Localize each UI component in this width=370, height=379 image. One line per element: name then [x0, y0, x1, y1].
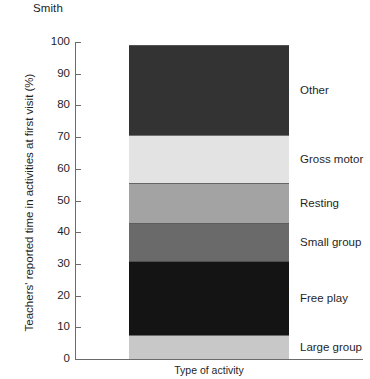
y-axis-tick-label: 80: [36, 99, 70, 111]
bar-segment: [129, 183, 289, 223]
bar-segment-label: Other: [300, 84, 329, 96]
y-axis-tick-mark: [75, 137, 81, 138]
bar-segment-divider: [129, 183, 289, 184]
bar-segment-divider: [129, 335, 289, 336]
y-axis-tick-label: 40: [36, 226, 70, 238]
y-axis-tick-mark: [75, 201, 81, 202]
y-axis-tick-label: 10: [36, 321, 70, 333]
y-axis-tick-mark: [75, 42, 81, 43]
bar-segment-divider: [129, 261, 289, 262]
y-axis-tick-label-wrap: 100: [36, 36, 70, 48]
chart-plot-area: 0102030405060708090100 Teachers' reporte…: [0, 0, 370, 379]
bar-segment: [129, 45, 289, 135]
y-axis-tick-label-wrap: 70: [36, 131, 70, 143]
y-axis-tick-label: 90: [36, 68, 70, 80]
y-axis-tick-mark: [75, 105, 81, 106]
bar-segment: [129, 135, 289, 183]
y-axis-tick-label: 30: [36, 258, 70, 270]
y-axis-tick-mark: [75, 169, 81, 170]
y-axis-tick-mark: [75, 327, 81, 328]
y-axis-tick-label: 70: [36, 131, 70, 143]
bar-segment: [129, 261, 289, 335]
bar-segment-divider: [129, 223, 289, 224]
y-axis-tick-label-wrap: 50: [36, 195, 70, 207]
x-axis-title: Type of activity: [129, 364, 289, 376]
x-axis-line: [75, 359, 363, 360]
y-axis-tick-mark: [75, 74, 81, 75]
bar-segment-divider: [129, 135, 289, 136]
bar-segment-label: Free play: [300, 292, 348, 304]
y-axis-tick-label: 60: [36, 163, 70, 175]
bar-segment-label: Gross motor: [300, 153, 363, 165]
y-axis-tick-label-wrap: 10: [36, 321, 70, 333]
y-axis-tick-mark: [75, 264, 81, 265]
y-axis-tick-label-wrap: 80: [36, 99, 70, 111]
bar-segment-label: Resting: [300, 197, 339, 209]
y-axis-tick-label: 50: [36, 195, 70, 207]
y-axis-tick-mark: [75, 296, 81, 297]
bar-segment-label: Small group: [300, 236, 361, 248]
y-axis-tick-mark: [75, 359, 81, 360]
bar-segment: [129, 335, 289, 359]
y-axis-tick-label-wrap: 20: [36, 290, 70, 302]
y-axis-tick-label-wrap: 0: [36, 353, 70, 365]
y-axis-tick-label-wrap: 90: [36, 68, 70, 80]
y-axis-tick-mark: [75, 232, 81, 233]
y-axis-tick-label: 20: [36, 290, 70, 302]
bar-segment-divider: [129, 45, 289, 46]
y-axis-tick-label-wrap: 60: [36, 163, 70, 175]
y-axis-tick-label: 100: [36, 36, 70, 48]
y-axis-tick-label-wrap: 30: [36, 258, 70, 270]
y-axis-tick-label-wrap: 40: [36, 226, 70, 238]
y-axis-tick-label: 0: [36, 353, 70, 365]
bar-segment: [129, 223, 289, 261]
bar-segment-label: Large group: [300, 341, 362, 353]
y-axis-title: Teachers' reported time in activities at…: [23, 53, 36, 353]
